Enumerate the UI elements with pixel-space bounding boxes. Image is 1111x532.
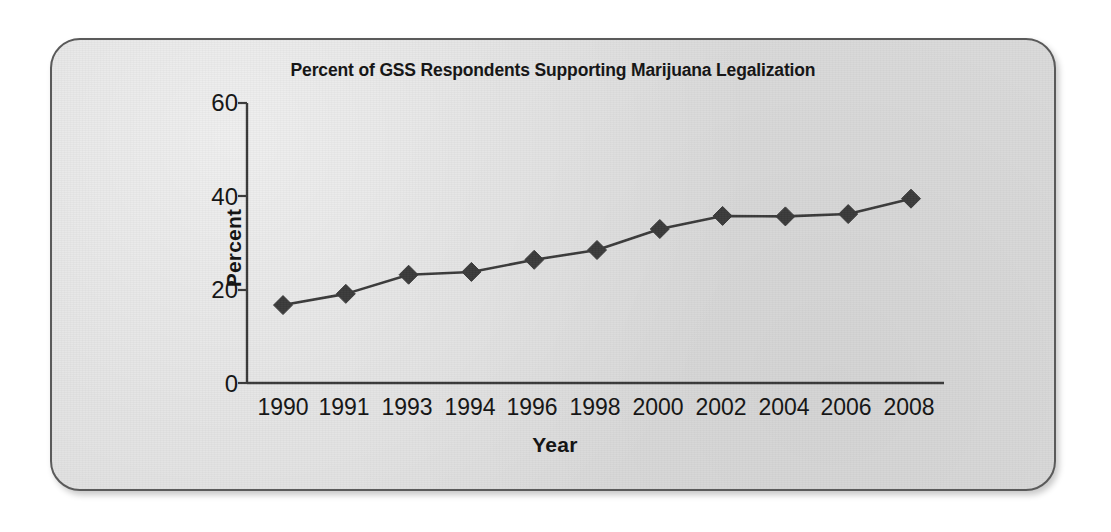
y-axis-ticks: [238, 103, 247, 383]
data-point-marker: [902, 189, 921, 208]
data-point-marker: [588, 241, 607, 260]
data-point-marker: [839, 205, 858, 224]
data-point-marker: [336, 284, 355, 303]
data-point-marker: [713, 206, 732, 225]
chart-svg: [52, 40, 1058, 489]
data-point-marker: [776, 207, 795, 226]
chart-plot-area: Percent Year 60 40 20 0 1990 1991 1993 1…: [52, 40, 1058, 489]
data-point-marker: [462, 262, 481, 281]
data-point-marker: [399, 265, 418, 284]
data-series-markers: [274, 189, 921, 314]
figure-frame: Percent of GSS Respondents Supporting Ma…: [50, 38, 1056, 491]
data-point-marker: [274, 296, 293, 315]
data-point-marker: [650, 220, 669, 239]
data-point-marker: [525, 250, 544, 269]
